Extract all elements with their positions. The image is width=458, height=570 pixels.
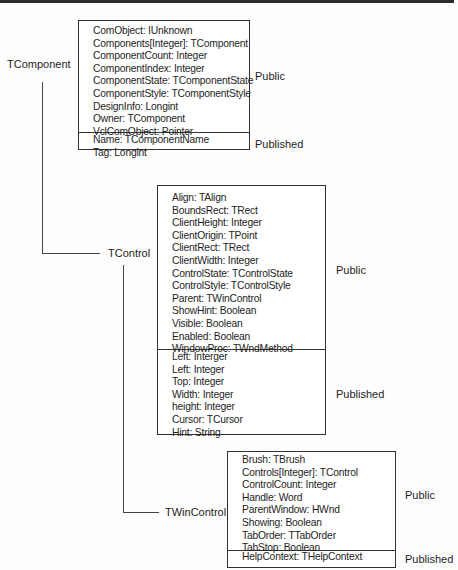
- member-row: Handle: Word: [242, 492, 395, 505]
- member-row: ParentWindow: HWnd: [242, 504, 395, 517]
- member-row: HelpContext: THelpContext: [242, 551, 395, 564]
- member-row: Brush: TBrush: [242, 454, 395, 467]
- connector-tcontrol-vertical: [123, 265, 124, 513]
- member-row: ControlStyle: TControlStyle: [172, 280, 325, 293]
- class-name-twincontrol: TWinControl: [165, 506, 226, 518]
- published-section: Name: TComponentNameTag: Longint: [79, 133, 249, 159]
- class-box-twincontrol: Brush: TBrushControls[Integer]: TControl…: [227, 451, 396, 568]
- member-row: ControlCount: Integer: [242, 479, 395, 492]
- member-row: Controls[Integer]: TControl: [242, 467, 395, 480]
- section-label-published: Published: [405, 553, 453, 565]
- member-row: Components[Integer]: TComponent: [93, 38, 249, 51]
- member-row: ShowHint: Boolean: [172, 305, 325, 318]
- connector-tcontrol-horizontal: [123, 512, 159, 513]
- member-row: BoundsRect: TRect: [172, 205, 325, 218]
- member-row: ClientRect: TRect: [172, 242, 325, 255]
- public-section: Align: TAlignBoundsRect: TRectClientHeig…: [158, 186, 325, 350]
- member-row: Hint: String: [172, 427, 325, 440]
- member-row: Enabled: Boolean: [172, 331, 325, 344]
- member-row: ClientOrigin: TPoint: [172, 230, 325, 243]
- class-name-tcomponent: TComponent: [7, 58, 71, 70]
- member-row: ClientHeight: Integer: [172, 217, 325, 230]
- member-row: Top: Integer: [172, 376, 325, 389]
- member-row: ComponentState: TComponentState: [93, 75, 249, 88]
- member-row: Cursor: TCursor: [172, 414, 325, 427]
- class-name-tcontrol: TControl: [108, 247, 150, 259]
- member-row: height: Integer: [172, 401, 325, 414]
- member-row: ComponentIndex: Integer: [93, 63, 249, 76]
- connector-tcomponent-vertical: [42, 82, 43, 254]
- published-section: HelpContext: THelpContext: [228, 551, 395, 564]
- member-row: ComponentCount: Integer: [93, 50, 249, 63]
- member-row: Owner: TComponent: [93, 113, 249, 126]
- member-row: Left: Integer: [172, 364, 325, 377]
- member-row: ClientWidth: Integer: [172, 255, 325, 268]
- member-row: TabOrder: TTabOrder: [242, 530, 395, 543]
- member-row: Width: Integer: [172, 389, 325, 402]
- member-row: ComponentStyle: TComponentStyle: [93, 88, 249, 101]
- section-label-public: Public: [336, 264, 366, 276]
- top-rule: [0, 0, 454, 3]
- section-label-public: Public: [255, 70, 285, 82]
- member-row: ControlState: TControlState: [172, 268, 325, 281]
- member-row: Showing: Boolean: [242, 517, 395, 530]
- member-row: Parent: TWinControl: [172, 293, 325, 306]
- public-section: Brush: TBrushControls[Integer]: TControl…: [228, 452, 395, 551]
- member-row: Visible: Boolean: [172, 318, 325, 331]
- member-row: DesignInfo: Longint: [93, 101, 249, 114]
- section-label-published: Published: [255, 138, 303, 150]
- section-label-public: Public: [405, 489, 435, 501]
- connector-tcomponent-horizontal: [42, 253, 100, 254]
- member-row: Align: TAlign: [172, 192, 325, 205]
- section-label-published: Published: [336, 388, 384, 400]
- member-row: Tag: Longint: [93, 147, 249, 160]
- member-row: ComObject: IUnknown: [93, 25, 249, 38]
- class-box-tcomponent: ComObject: IUnknownComponents[Integer]: …: [78, 20, 250, 150]
- class-box-tcontrol: Align: TAlignBoundsRect: TRectClientHeig…: [157, 185, 326, 435]
- public-section: ComObject: IUnknownComponents[Integer]: …: [79, 21, 249, 133]
- published-section: Left: IntergerLeft: IntegerTop: IntegerW…: [158, 350, 325, 439]
- member-row: Name: TComponentName: [93, 134, 249, 147]
